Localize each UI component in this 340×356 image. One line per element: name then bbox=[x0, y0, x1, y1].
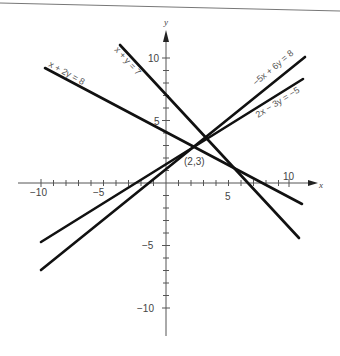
line-neg5x-plus-6y-eq-8 bbox=[41, 57, 305, 270]
equation-label: x + y = 7 bbox=[113, 45, 144, 77]
x-axis-arrow-icon bbox=[308, 180, 318, 186]
point-annotation: (2,3) bbox=[184, 156, 205, 167]
chart: −10 −5 5 10 x bbox=[0, 0, 340, 356]
y-axis-arrow-icon bbox=[163, 30, 169, 42]
line-x-plus-2y-eq-8 bbox=[45, 68, 302, 204]
y-axis: 10 5 −5 −10 y bbox=[137, 17, 170, 336]
y-tick-label: 10 bbox=[148, 53, 160, 64]
x-tick-label: −5 bbox=[93, 187, 105, 198]
equation-label: 2x − 3y = −5 bbox=[254, 85, 302, 120]
y-axis-label: y bbox=[163, 17, 168, 27]
x-axis: −10 −5 5 10 x bbox=[18, 171, 323, 202]
y-tick-label: −5 bbox=[142, 240, 154, 251]
x-tick-label: 5 bbox=[225, 191, 231, 202]
y-tick-label: −10 bbox=[137, 303, 154, 314]
line-2x-minus-3y-eq-neg5 bbox=[41, 79, 303, 242]
x-tick-label: −10 bbox=[30, 187, 47, 198]
top-rule bbox=[0, 3, 340, 11]
x-tick-label: 10 bbox=[283, 171, 295, 182]
x-axis-label: x bbox=[318, 180, 323, 190]
